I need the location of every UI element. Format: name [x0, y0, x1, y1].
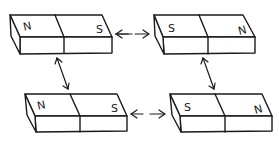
pole-label-left: S: [168, 22, 175, 35]
magnet-bottom-right: S N: [170, 94, 272, 132]
pole-label-left: S: [184, 101, 191, 114]
double-arrow-right: [201, 58, 215, 89]
magnet-bottom-left: N S: [25, 94, 127, 132]
pole-label-right: S: [96, 23, 103, 36]
magnet-diagram: N S S N N S S N: [0, 0, 279, 146]
double-arrow-left: [55, 58, 69, 89]
pole-label-right: S: [111, 102, 118, 115]
double-arrow-top: [116, 30, 149, 38]
double-arrow-bottom: [131, 110, 165, 118]
magnet-top-left: N S: [10, 15, 112, 54]
magnet-top-right: S N: [154, 15, 255, 54]
